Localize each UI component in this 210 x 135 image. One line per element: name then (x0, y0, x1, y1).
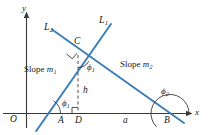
base-label-a: a (123, 116, 128, 126)
angle-label-phi2-at-B-sub: 2 (166, 91, 169, 97)
slope-label-m1-word: Slope (24, 64, 45, 74)
line-label-L2-text: L (44, 21, 50, 32)
origin-label: O (10, 115, 17, 125)
slope-label-m2-sub: 2 (149, 64, 152, 70)
angle-label-phi1-at-C-sub: 1 (92, 67, 95, 73)
point-label-D: D (75, 116, 82, 126)
angle-label-phi1-at-A: ϕ1 (62, 99, 70, 109)
point-label-A: A (58, 116, 64, 126)
x-axis-label: x (195, 108, 199, 117)
point-label-B: B (164, 116, 170, 126)
point-label-C: C (74, 37, 80, 47)
right-angle-marker-at-D (72, 107, 78, 113)
slope-label-m1-sub: 1 (53, 69, 56, 75)
angle-label-phi1-at-A-symbol: ϕ (62, 98, 67, 108)
y-axis-label: y (22, 4, 26, 13)
angle-label-phi1-at-C-symbol: ϕ (87, 62, 92, 72)
line-label-L1: L1 (99, 15, 108, 26)
line-label-L1-text: L (99, 14, 105, 25)
angle-label-phi1-at-A-sub: 1 (67, 103, 70, 109)
slope-label-m2-word: Slope (120, 59, 141, 69)
angle-label-phi2-at-B-symbol: ϕ (161, 86, 166, 96)
angle-label-phi2-at-B: ϕ2 (161, 87, 169, 97)
geometry-figure: y x O L2 L1 Slope m1 Slope m2 C A D B h … (0, 0, 210, 135)
line-label-L2-sub: 2 (50, 26, 53, 33)
slope-label-m2: Slope m2 (120, 60, 152, 70)
line-label-L2: L2 (44, 22, 53, 33)
angle-label-phi1-at-C: ϕ1 (87, 63, 95, 73)
slope-label-m1: Slope m1 (24, 65, 56, 75)
height-label-h: h (83, 86, 88, 96)
right-angle-marker-at-C (67, 53, 77, 59)
line-label-L1-sub: 1 (105, 19, 108, 26)
